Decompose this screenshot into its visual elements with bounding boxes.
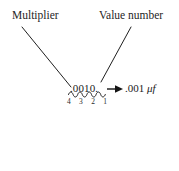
digit-position-3: 3: [79, 98, 83, 106]
right-arrow-icon: [115, 85, 123, 93]
leader-line-multiplier: [22, 27, 71, 87]
digit-position-row: 4 3 2 1: [67, 98, 107, 106]
digit-position-2: 2: [91, 98, 95, 106]
leader-line-value-number: [101, 27, 131, 82]
digit-position-4: 4: [67, 98, 71, 106]
result-unit: μf: [147, 82, 156, 94]
capacitor-code-diagram: Multiplier Value number .0010. 4 3 2 1 .…: [0, 0, 179, 171]
multiplier-label: Multiplier: [12, 10, 59, 22]
capacitor-code-text: .0010.: [70, 83, 98, 94]
value-number-label: Value number: [99, 10, 163, 22]
digit-position-1: 1: [103, 98, 107, 106]
result-value-group: .001 μf: [125, 83, 156, 94]
result-value: .001: [125, 82, 144, 94]
